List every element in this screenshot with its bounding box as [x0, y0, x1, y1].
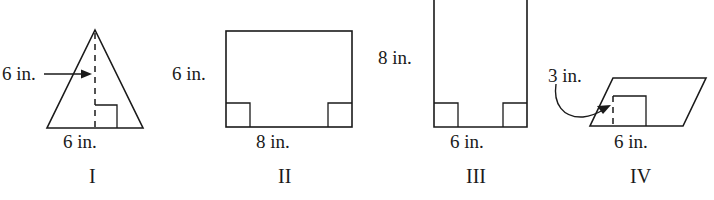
parallelogram-outline: [590, 78, 706, 126]
geometry-figure-board: 6 in. 6 in. I 6 in. 8 in. II 8 in. 6 in.…: [0, 0, 714, 200]
figure-1-base-label: 6 in.: [63, 132, 97, 151]
figure-3-roman-label: III: [466, 166, 486, 186]
triangle-right-angle-mark: [95, 105, 117, 128]
figure-2-height-label: 6 in.: [172, 64, 206, 83]
triangle-height-arrow: [44, 70, 92, 79]
rectangle-ii-right-angle-left: [226, 103, 250, 127]
figure-3-base-label: 6 in.: [450, 132, 484, 151]
parallelogram-right-angle-mark: [613, 96, 646, 126]
figure-4-roman-label: IV: [630, 166, 651, 186]
rectangle-iii-right-angle-right: [503, 103, 527, 127]
figures-svg-canvas: [0, 0, 714, 200]
rectangle-iii-right-angle-left: [434, 103, 458, 127]
figure-2-base-label: 8 in.: [256, 132, 290, 151]
figure-4-height-label: 3 in.: [548, 66, 582, 85]
rectangle-iii-outline: [434, 0, 527, 127]
rectangle-ii-right-angle-right: [328, 103, 352, 127]
figure-3-height-label: 8 in.: [378, 48, 412, 67]
figure-2-rectangle-group: [226, 31, 352, 127]
figure-3-rectangle-group: [434, 0, 527, 127]
figure-2-roman-label: II: [278, 166, 291, 186]
figure-1-roman-label: I: [89, 166, 96, 186]
rectangle-ii-outline: [226, 31, 352, 127]
figure-4-base-label: 6 in.: [614, 132, 648, 151]
figure-1-triangle-group: [44, 30, 143, 128]
figure-1-height-label: 6 in.: [2, 64, 36, 83]
